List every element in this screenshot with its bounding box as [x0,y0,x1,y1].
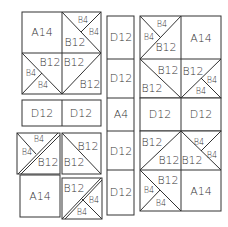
cell-label: B4 [194,138,204,147]
cell-label: D12 [190,108,212,121]
cell-label: B12 [64,36,85,49]
cell-label: A4 [114,108,129,121]
cell-label: B12 [155,41,176,54]
cell-label: B12 [39,56,60,69]
cell-label: B4 [78,16,88,25]
cell-label: B4 [89,28,99,37]
cell-label: D12 [110,72,132,85]
cell-label: D12 [110,31,132,44]
cell-label: B12 [37,156,58,169]
cell-label: B12 [181,154,202,167]
cell-label: B12 [182,65,203,78]
cell-label: B12 [157,174,178,187]
cell-label: A14 [190,32,212,45]
left-strip: D12 D12 [22,100,101,126]
cell-label: A14 [29,190,51,203]
right-block: B4 B4 B12 A14 B12 B12 B12 B4 B4 D12 D12 … [140,16,221,211]
cell-label: B12 [63,156,84,169]
cell-label: B4 [144,186,154,195]
cell-label: D12 [31,107,53,120]
cell-label: A14 [190,185,212,198]
cell-label: D12 [110,145,132,158]
cell-label: B12 [141,82,162,95]
cell-label: A14 [31,26,53,39]
quilt-diagram: A14 B4 B4 B12 B12 B4 B4 B12 B12 D12 D12 … [0,0,228,227]
cell-label: B12 [157,64,178,77]
top-left-block: A14 B4 B4 B12 B12 B4 B4 B12 B12 [22,12,101,94]
cell-label: B4 [89,196,99,205]
cell-label: B12 [79,78,100,91]
cell-label: D12 [149,108,171,121]
cell-label: D12 [70,107,92,120]
cell-label: B12 [63,182,84,195]
cell-label: B4 [144,33,154,42]
cell-label: B4 [38,81,48,90]
cell-label: B4 [156,199,166,208]
cell-label: B4 [22,148,32,157]
cell-label: B12 [141,136,162,149]
center-column: D12 D12 A4 D12 D12 [107,16,134,215]
cell-label: B4 [77,208,87,217]
bottom-left-block: B4 B4 B12 B12 B12 A14 B12 B4 B4 [17,133,102,219]
cell-label: B12 [77,140,98,153]
cell-label: B4 [207,151,217,160]
cell-label: B12 [63,56,84,69]
cell-label: B4 [157,20,167,29]
cell-label: B4 [196,87,206,96]
cell-label: B4 [26,69,36,78]
cell-label: D12 [110,186,132,199]
cell-label: B12 [158,154,179,167]
cell-label: B4 [34,135,44,144]
cell-label: B4 [207,76,217,85]
